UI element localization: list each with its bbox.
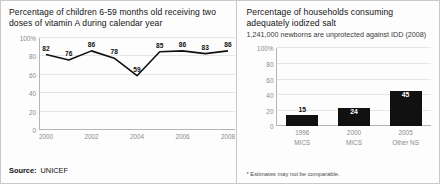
x-axis-tick-label: 2005Other NS bbox=[392, 129, 419, 146]
category-sublabel: MICS bbox=[294, 139, 310, 146]
y-axis-tick-label: 20 bbox=[29, 108, 36, 115]
vitamin-a-plot-area: 020406080100%827686785985868386200020022… bbox=[39, 38, 235, 130]
gridline bbox=[276, 63, 431, 64]
data-point-label: 59 bbox=[133, 66, 140, 73]
vitamin-a-chart-title: Percentage of children 6-59 months old r… bbox=[9, 7, 230, 29]
data-point-label: 76 bbox=[65, 50, 72, 57]
x-axis-tick-label: 2002 bbox=[84, 133, 98, 140]
vitamin-a-line-chart: 020406080100%827686785985868386200020022… bbox=[9, 34, 230, 138]
data-point-label: 78 bbox=[111, 48, 118, 55]
y-axis-tick-label: 60 bbox=[266, 76, 273, 83]
gridline bbox=[276, 47, 431, 48]
category-label: 1996 bbox=[295, 129, 309, 136]
iodized-salt-y-axis bbox=[276, 48, 277, 126]
category-sublabel: Other NS bbox=[392, 139, 419, 146]
iodized-salt-chart-subtitle: 1,241,000 newborns are unprotected again… bbox=[246, 30, 433, 39]
y-axis-tick-label: 0 bbox=[32, 127, 36, 134]
vitamin-a-panel: Percentage of children 6-59 months old r… bbox=[1, 1, 236, 183]
bar bbox=[286, 115, 318, 127]
category-sublabel: MICS bbox=[346, 139, 362, 146]
source-value: UNICEF bbox=[41, 166, 69, 175]
data-point-label: 83 bbox=[202, 44, 209, 51]
data-point-label: 85 bbox=[156, 42, 163, 49]
x-axis-tick-label: 2006 bbox=[175, 133, 189, 140]
dashboard-frame: Percentage of children 6-59 months old r… bbox=[0, 0, 440, 184]
x-axis-tick-label: 1996MICS bbox=[294, 129, 310, 146]
category-label: 2005 bbox=[398, 129, 412, 136]
y-axis-tick-label: 100% bbox=[20, 35, 36, 42]
iodized-salt-panel: Percentage of households consuming adequ… bbox=[236, 1, 439, 183]
bar-value-label: 45 bbox=[402, 91, 410, 98]
data-point-label: 82 bbox=[42, 45, 49, 52]
x-axis-tick-label: 2000MICS bbox=[346, 129, 362, 146]
data-point-label: 86 bbox=[179, 41, 186, 48]
source-note: Source:UNICEF bbox=[9, 166, 68, 175]
bar-value-label: 15 bbox=[299, 106, 307, 113]
x-axis-tick-label: 2000 bbox=[39, 133, 53, 140]
y-axis-tick-label: 80 bbox=[266, 61, 273, 68]
iodized-salt-chart-title: Percentage of households consuming adequ… bbox=[246, 7, 433, 29]
y-axis-tick-label: 100% bbox=[257, 45, 273, 52]
y-axis-tick-label: 80 bbox=[29, 53, 36, 60]
gridline bbox=[276, 79, 431, 80]
data-point-label: 86 bbox=[224, 41, 231, 48]
comparability-footnote: * Estimates may not be comparable. bbox=[246, 171, 339, 177]
y-axis-tick-label: 20 bbox=[266, 107, 273, 114]
x-axis-tick-label: 2008 bbox=[221, 133, 235, 140]
bar-value-label: 24 bbox=[350, 108, 358, 115]
category-label: 2000 bbox=[347, 129, 361, 136]
iodized-salt-plot-area: 020406080100%151996MICS242000MICS452005O… bbox=[276, 48, 431, 126]
source-label: Source: bbox=[9, 166, 37, 175]
y-axis-tick-label: 60 bbox=[29, 71, 36, 78]
y-axis-tick-label: 40 bbox=[29, 90, 36, 97]
x-axis-tick-label: 2004 bbox=[130, 133, 144, 140]
data-point-label: 86 bbox=[88, 41, 95, 48]
y-axis-tick-label: 40 bbox=[266, 92, 273, 99]
y-axis-tick-label: 0 bbox=[270, 123, 274, 130]
iodized-salt-bar-chart: 020406080100%151996MICS242000MICS452005O… bbox=[246, 45, 433, 137]
